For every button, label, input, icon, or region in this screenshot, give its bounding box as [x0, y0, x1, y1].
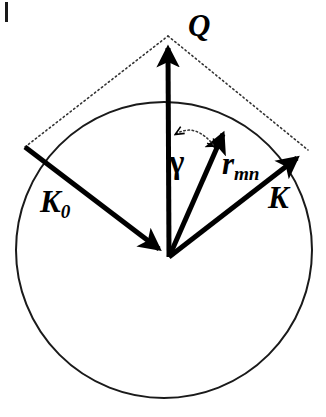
ewald-circle [16, 102, 312, 398]
construction-line-right [168, 36, 308, 150]
scattering-diagram-figure: Q K0 K rmn γ [0, 0, 326, 417]
label-rmn: rmn [222, 148, 259, 179]
label-k0-base: K [40, 184, 61, 219]
label-k0: K0 [40, 186, 70, 217]
label-k0-subscript: 0 [61, 201, 70, 222]
label-gamma: γ [169, 146, 184, 179]
label-q: Q [188, 10, 210, 41]
label-rmn-subscript: mn [234, 163, 259, 184]
construction-line-left [25, 36, 168, 147]
corner-tick-mark [5, 2, 8, 22]
label-rmn-base: r [222, 146, 234, 181]
label-k: K [268, 182, 289, 213]
